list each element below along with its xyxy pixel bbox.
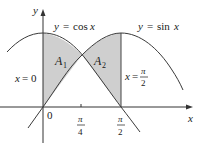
- svg-text:y: y: [137, 20, 143, 32]
- svg-text:x: x: [173, 20, 179, 32]
- svg-text:=: =: [132, 70, 138, 82]
- svg-text:π: π: [141, 66, 146, 76]
- x-axis-label: x: [187, 112, 193, 124]
- svg-text:A: A: [54, 54, 63, 68]
- origin-label: 0: [47, 109, 53, 121]
- cos-curve-label: y = cos x: [53, 20, 95, 32]
- svg-text:4: 4: [78, 127, 83, 137]
- y-axis-label: y: [32, 4, 38, 16]
- svg-text:A: A: [93, 54, 102, 68]
- y-axis-arrow-icon: [41, 9, 46, 16]
- region-a1-shading: [43, 33, 82, 107]
- svg-text:x: x: [14, 72, 20, 84]
- x-equals-0-label: x = 0: [14, 72, 37, 84]
- x-tick-label-pi-over-2: π 2: [117, 114, 125, 137]
- svg-text:sin: sin: [157, 20, 170, 32]
- svg-text:y: y: [53, 20, 59, 32]
- region-a2-shading: [82, 33, 121, 107]
- svg-text:=: =: [63, 20, 69, 32]
- svg-text:x: x: [124, 70, 130, 82]
- svg-text:0: 0: [31, 72, 37, 84]
- svg-text:x: x: [89, 20, 95, 32]
- svg-text:cos: cos: [73, 20, 88, 32]
- svg-text:=: =: [147, 20, 153, 32]
- svg-text:π: π: [78, 114, 83, 124]
- svg-text:1: 1: [63, 61, 67, 70]
- x-equals-pi-over-2-label: x = π 2: [124, 66, 148, 88]
- svg-text:π: π: [118, 114, 123, 124]
- svg-text:=: =: [22, 72, 28, 84]
- svg-text:2: 2: [118, 127, 123, 137]
- svg-text:2: 2: [141, 78, 146, 88]
- area-between-curves-diagram: y x 0 y = cos x y = sin x A 1 A 2 x = 0 …: [0, 0, 202, 144]
- svg-text:2: 2: [102, 61, 106, 70]
- x-tick-label-pi-over-4: π 4: [77, 114, 85, 137]
- x-axis-arrow-icon: [186, 105, 193, 110]
- sin-curve-label: y = sin x: [137, 20, 179, 32]
